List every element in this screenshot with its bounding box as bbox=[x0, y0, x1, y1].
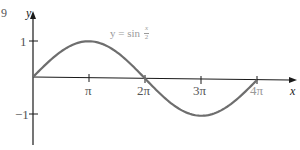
x-tick-label-pi: π bbox=[85, 84, 92, 97]
fraction-denominator: 2 bbox=[145, 34, 149, 41]
sine-curve bbox=[33, 41, 257, 116]
y-tick-label-neg1: −1 bbox=[15, 108, 29, 121]
x-tick-label-3pi: 3π bbox=[193, 84, 206, 97]
figure-number: 9 bbox=[1, 7, 7, 19]
x-axis-arrow-icon bbox=[289, 77, 297, 83]
x-tick-label-2pi: 2π bbox=[137, 84, 150, 97]
function-fraction: x 2 bbox=[144, 25, 149, 41]
y-axis-label: y bbox=[26, 7, 31, 19]
x-axis-label: x bbox=[290, 85, 295, 97]
function-lhs: y = sin bbox=[110, 28, 140, 39]
y-tick-label-1: 1 bbox=[20, 35, 27, 48]
x-axis bbox=[33, 77, 290, 80]
sine-chart bbox=[0, 0, 300, 150]
fraction-numerator: x bbox=[145, 25, 148, 32]
x-tick-label-4pi: 4π bbox=[250, 84, 263, 97]
function-label: y = sin x 2 bbox=[110, 25, 149, 41]
